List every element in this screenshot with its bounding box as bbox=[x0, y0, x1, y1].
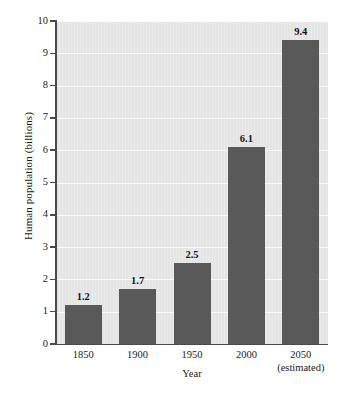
x-axis-title: Year bbox=[56, 368, 328, 379]
y-tick-label-wrap: 7 bbox=[14, 112, 48, 123]
y-tick-label: 6 bbox=[18, 145, 48, 156]
x-axis-line bbox=[55, 344, 328, 346]
y-tick-label: 1 bbox=[18, 306, 48, 317]
x-tick-label-text: 1850 bbox=[73, 349, 94, 360]
y-tick-label: 0 bbox=[18, 339, 48, 350]
y-tick-label: 9 bbox=[18, 48, 48, 59]
y-tick-label-wrap: 3 bbox=[14, 242, 48, 253]
x-tick-label-text: 1950 bbox=[182, 349, 203, 360]
y-tick-label: 7 bbox=[18, 112, 48, 123]
y-tick-label-wrap: 5 bbox=[14, 177, 48, 188]
gridline bbox=[56, 21, 328, 22]
y-tick-label-wrap: 9 bbox=[14, 48, 48, 59]
bar-value-label: 1.7 bbox=[118, 275, 158, 286]
bar bbox=[119, 289, 156, 344]
y-tick-label: 2 bbox=[18, 274, 48, 285]
y-axis-line bbox=[55, 20, 57, 345]
y-tick-label-wrap: 10 bbox=[14, 16, 48, 27]
population-bar-chart: Human population (billions) 012345678910… bbox=[0, 0, 347, 402]
bar-value-label: 2.5 bbox=[172, 249, 212, 260]
y-tick-label: 4 bbox=[18, 209, 48, 220]
y-tick-label-wrap: 6 bbox=[14, 145, 48, 156]
bar-value-label: 1.2 bbox=[63, 291, 103, 302]
y-tick-label-wrap: 1 bbox=[14, 306, 48, 317]
bar bbox=[282, 40, 319, 344]
x-tick-label-text: 1900 bbox=[127, 349, 148, 360]
bar bbox=[228, 147, 265, 344]
y-tick-label-wrap: 0 bbox=[14, 339, 48, 350]
bar-value-label: 9.4 bbox=[281, 26, 321, 37]
y-tick-label: 8 bbox=[18, 80, 48, 91]
y-tick-label-wrap: 2 bbox=[14, 274, 48, 285]
bar-value-label: 6.1 bbox=[226, 133, 266, 144]
y-tick-label-wrap: 8 bbox=[14, 80, 48, 91]
y-tick-label: 10 bbox=[18, 16, 48, 27]
bar bbox=[174, 263, 211, 344]
y-tick-label-wrap: 4 bbox=[14, 209, 48, 220]
x-tick-label-text: 2000 bbox=[236, 349, 257, 360]
y-tick-label: 5 bbox=[18, 177, 48, 188]
bar bbox=[65, 305, 102, 344]
x-tick-label-text: 2050 bbox=[290, 349, 311, 360]
y-tick-label: 3 bbox=[18, 242, 48, 253]
